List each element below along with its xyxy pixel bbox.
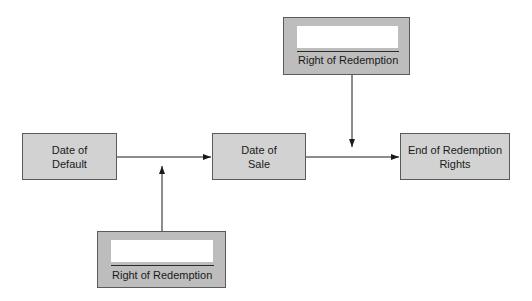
right-of-redemption-bottom: Right of Redemption xyxy=(97,231,226,288)
divider-line xyxy=(297,51,399,52)
node-end-of-redemption-rights: End of Redemption Rights xyxy=(400,133,510,180)
redemption-label-bottom: Right of Redemption xyxy=(112,269,212,281)
redemption-field-top xyxy=(297,26,398,48)
node-label: Date of Default xyxy=(52,143,87,171)
right-of-redemption-top: Right of Redemption xyxy=(283,17,410,75)
node-date-of-sale: Date of Sale xyxy=(212,133,306,180)
redemption-label-top: Right of Redemption xyxy=(298,54,398,66)
node-label: Date of Sale xyxy=(241,143,276,171)
divider-line xyxy=(111,265,214,266)
node-label: End of Redemption Rights xyxy=(408,143,502,171)
redemption-field-bottom xyxy=(111,240,213,262)
node-date-of-default: Date of Default xyxy=(22,133,117,180)
